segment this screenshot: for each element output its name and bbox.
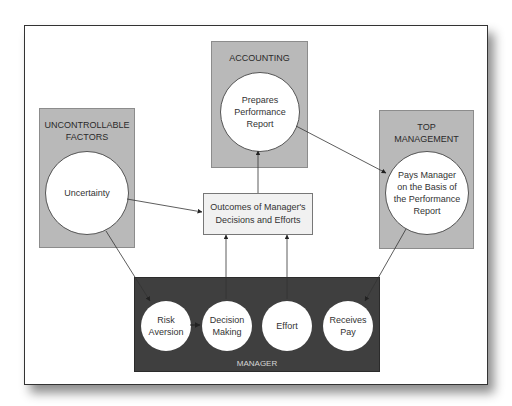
receives-pay-circle: Receives Pay bbox=[323, 301, 373, 351]
uncontrollable-factors-box: UNCONTROLLABLE FACTORS Uncertainty bbox=[39, 108, 135, 248]
circle-text: on the Basis of bbox=[394, 181, 461, 193]
circle-text: Uncertainty bbox=[64, 187, 110, 199]
uncertainty-circle: Uncertainty bbox=[45, 151, 129, 235]
risk-aversion-circle: Risk Aversion bbox=[141, 301, 191, 351]
manager-box: Risk Aversion Decision Making Effort Rec… bbox=[134, 277, 380, 372]
decision-making-circle: Decision Making bbox=[202, 301, 252, 351]
title-line: TOP bbox=[380, 121, 473, 133]
outcomes-text: Outcomes of Manager's bbox=[210, 201, 305, 214]
title-line: UNCONTROLLABLE bbox=[40, 119, 134, 131]
pays-manager-circle: Pays Manager on the Basis of the Perform… bbox=[385, 151, 469, 235]
title-line: FACTORS bbox=[40, 131, 134, 143]
circle-text: Making bbox=[210, 326, 245, 338]
circle-text: Report bbox=[394, 205, 461, 217]
uncontrollable-factors-title: UNCONTROLLABLE FACTORS bbox=[40, 119, 134, 143]
circle-text: Decision bbox=[210, 314, 245, 326]
accounting-box: ACCOUNTING Prepares Performance Report bbox=[211, 41, 308, 168]
title-line: MANAGEMENT bbox=[380, 133, 473, 145]
top-management-title: TOP MANAGEMENT bbox=[380, 121, 473, 145]
circle-text: Receives bbox=[329, 314, 366, 326]
circle-text: Pay bbox=[329, 326, 366, 338]
circle-text: Performance bbox=[234, 106, 286, 118]
accounting-title: ACCOUNTING bbox=[212, 52, 307, 64]
circle-text: Prepares bbox=[234, 94, 286, 106]
circle-text: Risk bbox=[149, 314, 184, 326]
circle-text: Report bbox=[234, 118, 286, 130]
top-management-box: TOP MANAGEMENT Pays Manager on the Basis… bbox=[379, 110, 474, 249]
circle-text: Effort bbox=[276, 320, 297, 332]
effort-circle: Effort bbox=[262, 301, 312, 351]
outcomes-box: Outcomes of Manager's Decisions and Effo… bbox=[203, 193, 313, 235]
prepares-report-circle: Prepares Performance Report bbox=[220, 72, 300, 152]
manager-label: MANAGER bbox=[135, 359, 379, 368]
circle-text: Aversion bbox=[149, 326, 184, 338]
circle-text: Pays Manager bbox=[394, 169, 461, 181]
outcomes-text: Decisions and Efforts bbox=[210, 214, 305, 227]
circle-text: the Performance bbox=[394, 193, 461, 205]
